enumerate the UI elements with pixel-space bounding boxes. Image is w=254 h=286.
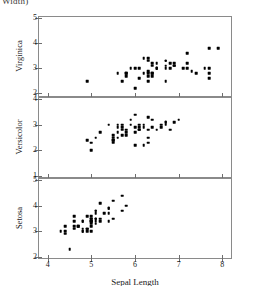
- data-point: [90, 222, 93, 225]
- data-point: [134, 113, 137, 116]
- data-point: [68, 248, 71, 251]
- x-tick-mark-inner: [222, 93, 223, 96]
- top-caption-fragment: Width): [2, 0, 28, 6]
- data-point: [121, 210, 124, 213]
- data-point: [169, 62, 172, 65]
- data-point: [169, 67, 172, 70]
- panel-label-virginica: Virginica: [13, 15, 23, 96]
- data-point: [208, 77, 211, 80]
- panel-label-versicolor: Versicolor: [13, 96, 23, 177]
- data-point: [147, 129, 150, 132]
- data-point: [90, 230, 93, 233]
- y-tick-label: 5: [33, 14, 37, 22]
- y-tick-label: 4: [33, 95, 37, 103]
- data-point: [121, 123, 124, 126]
- data-point: [164, 123, 167, 126]
- x-tick-label: 7: [177, 261, 181, 269]
- data-point: [217, 47, 220, 50]
- data-point: [112, 134, 115, 137]
- y-tick-mark-inner: [39, 18, 42, 19]
- y-tick-mark-inner: [39, 68, 42, 69]
- data-point: [116, 136, 119, 139]
- data-point: [121, 80, 124, 83]
- data-point: [169, 129, 172, 132]
- data-point: [116, 126, 119, 129]
- data-point: [108, 123, 111, 126]
- data-point: [134, 131, 137, 134]
- data-point: [112, 199, 115, 202]
- data-point: [94, 222, 97, 225]
- data-point: [90, 141, 93, 144]
- y-tick-label: 5: [33, 176, 37, 184]
- data-point: [147, 75, 150, 78]
- x-tick-mark-inner: [91, 255, 92, 258]
- y-tick-label: 4: [33, 39, 37, 47]
- data-point: [147, 116, 150, 119]
- y-tick-label: 4: [33, 202, 37, 210]
- data-point: [164, 60, 167, 63]
- data-point: [125, 75, 128, 78]
- data-point: [164, 80, 167, 83]
- x-tick-mark-inner: [179, 255, 180, 258]
- data-point: [173, 121, 176, 124]
- data-point: [81, 230, 84, 233]
- data-point: [129, 118, 132, 121]
- data-point: [90, 220, 93, 223]
- data-point: [121, 134, 124, 137]
- data-point: [134, 87, 137, 90]
- data-point: [94, 136, 97, 139]
- data-point: [186, 52, 189, 55]
- data-point: [86, 230, 89, 233]
- data-point: [64, 232, 67, 235]
- data-point: [116, 123, 119, 126]
- data-point: [86, 80, 89, 83]
- data-point: [112, 139, 115, 142]
- data-point: [147, 60, 150, 63]
- data-point: [134, 126, 137, 129]
- plot-area-versicolor: [39, 98, 231, 177]
- data-point: [94, 217, 97, 220]
- y-tick-mark-inner: [39, 99, 42, 100]
- x-tick-label: 5: [89, 261, 93, 269]
- data-point: [103, 212, 106, 215]
- data-point: [142, 123, 145, 126]
- y-tick-mark-inner: [39, 231, 42, 232]
- data-point: [121, 129, 124, 132]
- data-point: [116, 131, 119, 134]
- data-point: [86, 227, 89, 230]
- data-point: [142, 72, 145, 75]
- data-point: [151, 62, 154, 65]
- data-point: [142, 126, 145, 129]
- data-point: [147, 72, 150, 75]
- data-point: [81, 220, 84, 223]
- y-tick-label: 3: [33, 227, 37, 235]
- data-point: [125, 134, 128, 137]
- data-point: [164, 65, 167, 68]
- panel-label-setosa: Setosa: [13, 177, 23, 258]
- y-tick-mark-inner: [39, 176, 42, 177]
- x-tick-mark-inner: [91, 93, 92, 96]
- x-axis-title: Sepal Length: [38, 277, 232, 286]
- data-point: [125, 204, 128, 207]
- data-point: [108, 207, 111, 210]
- data-point: [177, 118, 180, 121]
- data-point: [208, 72, 211, 75]
- x-tick-label: 4: [46, 261, 50, 269]
- panel-setosa: 234545678: [38, 178, 232, 259]
- data-point: [116, 72, 119, 75]
- data-point: [99, 217, 102, 220]
- data-point: [147, 136, 150, 139]
- data-point: [99, 202, 102, 205]
- data-point: [138, 126, 141, 129]
- data-point: [77, 225, 80, 228]
- data-point: [90, 215, 93, 218]
- data-point: [151, 72, 154, 75]
- x-tick-mark-inner: [135, 255, 136, 258]
- data-point: [138, 123, 141, 126]
- data-point: [129, 123, 132, 126]
- x-tick-mark-inner: [135, 174, 136, 177]
- data-point: [151, 65, 154, 68]
- data-point: [151, 75, 154, 78]
- data-point: [64, 230, 67, 233]
- y-tick-mark-inner: [39, 125, 42, 126]
